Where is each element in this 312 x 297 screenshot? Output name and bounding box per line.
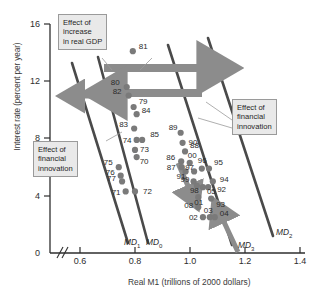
x-tick-1-4: 1.4 [287, 256, 312, 266]
y-tick-12: 12 [22, 76, 40, 86]
data-point-79 [131, 104, 137, 110]
data-point-label-83: 83 [119, 120, 128, 129]
data-point-84 [134, 111, 140, 117]
data-point-label-79: 79 [139, 97, 148, 106]
data-point-74 [134, 137, 140, 143]
data-point-label-96: 96 [198, 156, 207, 165]
data-point-label-73: 73 [140, 145, 149, 154]
data-point-90 [179, 140, 185, 146]
data-point-label-74: 74 [123, 136, 132, 145]
arrow-md3-pointer [224, 222, 238, 252]
data-point-label-82: 82 [113, 87, 122, 96]
data-point-label-75: 75 [104, 158, 113, 167]
curve-label-md2: MD2 [276, 227, 292, 239]
data-point-label-81: 81 [139, 42, 148, 51]
x-tick-1-0: 1.0 [177, 256, 203, 266]
data-point-label-98: 98 [190, 186, 199, 195]
data-point-label-01: 01 [194, 198, 203, 207]
data-point-73 [132, 147, 138, 153]
data-point-94 [210, 178, 216, 184]
data-point-83 [131, 125, 137, 131]
data-point-77 [119, 178, 125, 184]
data-point-93 [208, 196, 214, 202]
data-point-label-94: 94 [220, 175, 229, 184]
data-point-76 [118, 173, 124, 179]
data-point-label-70: 70 [140, 157, 149, 166]
data-point-96 [199, 165, 205, 171]
curve-label-md1: MD1 [124, 237, 140, 249]
curve-label-md3: MD3 [238, 240, 254, 252]
callout-line-2: financial [38, 154, 73, 163]
callout-line-3: innovation [38, 164, 73, 173]
data-point-label-97: 97 [185, 163, 194, 172]
data-point-label-93: 93 [216, 200, 225, 209]
callout-line-3: innovation [237, 122, 272, 131]
data-points [116, 48, 218, 220]
data-point-label-00: 00 [188, 151, 197, 160]
callout-line-2: financial [237, 112, 272, 121]
data-point-label-89: 89 [169, 123, 178, 132]
data-point-label-03: 03 [204, 206, 213, 215]
data-point-label-05: 05 [207, 187, 216, 196]
axis-lines [44, 24, 305, 258]
data-point-label-77: 77 [107, 174, 116, 183]
data-point-label-99: 99 [181, 175, 190, 184]
data-point-label-92: 92 [217, 185, 226, 194]
callout-effect-financial-innovation-right: Effect of financial innovation [232, 99, 277, 135]
curve-label-md0: MD0 [146, 237, 162, 249]
data-point-86 [178, 158, 184, 164]
data-point-label-87: 87 [167, 163, 176, 172]
data-point-label-71: 71 [112, 188, 121, 197]
callout-line-3: in real GDP [63, 37, 102, 46]
y-tick-16: 16 [22, 19, 40, 29]
data-point-80 [124, 84, 130, 90]
data-point-85 [139, 137, 145, 143]
data-point-95 [206, 165, 212, 171]
data-point-label-86: 86 [166, 153, 175, 162]
data-point-label-02: 02 [189, 213, 198, 222]
data-point-75 [116, 164, 122, 170]
x-tick-0-6: 0.6 [67, 256, 93, 266]
data-point-label-95: 95 [214, 158, 223, 167]
data-point-82 [126, 92, 132, 98]
callout-line-2: increase [63, 27, 102, 36]
data-point-89 [178, 130, 184, 136]
x-tick-0-8: 0.8 [122, 256, 148, 266]
y-tick-4: 4 [22, 191, 40, 201]
callout-effect-financial-innovation-left: Effect of financial innovation [33, 141, 78, 177]
data-point-label-84: 84 [142, 106, 151, 115]
data-point-label-88: 88 [190, 141, 199, 150]
x-tick-1-2: 1.2 [232, 256, 258, 266]
data-point-label-85: 85 [150, 130, 159, 139]
data-point-71 [123, 188, 129, 194]
y-tick-0: 0 [22, 248, 40, 258]
data-point-label-08: 08 [184, 201, 193, 210]
chart-figure: Interest rate (percent per year) Real M1… [0, 0, 312, 297]
data-point-81 [130, 48, 136, 54]
callout-effect-real-gdp: Effect of increase in real GDP [58, 14, 107, 50]
data-point-72 [132, 188, 138, 194]
callout-line-1: Effect of [237, 103, 272, 112]
callout-line-1: Effect of [38, 145, 73, 154]
data-point-label-04: 04 [220, 209, 229, 218]
y-axis-label: Interest rate (percent per year) [13, 12, 22, 182]
data-point-label-72: 72 [143, 187, 152, 196]
x-axis-label: Real M1 (trillions of 2000 dollars) [128, 277, 250, 287]
callout-line-1: Effect of [63, 18, 102, 27]
